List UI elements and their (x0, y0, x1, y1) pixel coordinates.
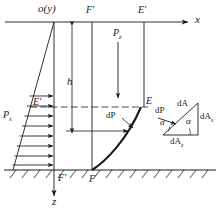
alpha-arc-right (189, 129, 190, 136)
label-alpha-right: α (186, 117, 191, 126)
label-Pz: Pz (113, 28, 122, 40)
z-axis-label: z (52, 196, 56, 207)
x-axis-label: x (195, 14, 200, 25)
label-alpha-left: α (160, 118, 165, 127)
label-dA-text: dA (177, 98, 188, 108)
label-dA-x-base: dA (200, 111, 211, 121)
label-Px-sub: x (9, 115, 12, 122)
curved-surface-EF (92, 107, 141, 170)
label-F-prime-bottom: F′ (58, 173, 66, 183)
label-h-depth: h (67, 76, 73, 87)
label-F-bottom: F (89, 174, 95, 184)
label-E-prime-top: E′ (138, 5, 146, 15)
label-F-prime-top: F′ (86, 5, 94, 15)
label-Px: Px (3, 110, 12, 122)
label-dA-z: dAz (170, 137, 183, 148)
label-dA: dA (177, 99, 188, 108)
label-dP-curve: dP (106, 111, 116, 120)
label-Pz-sub: z (119, 33, 121, 40)
hydrostatic-pressure-figure: o(y) x z F′ E′ E′ F′ F E h Px Pz dP dP d… (0, 0, 221, 213)
label-dP-curve-text: dP (106, 110, 116, 120)
label-E-curve: E (146, 96, 152, 106)
label-dA-z-base: dA (170, 136, 181, 146)
label-dA-x: dAx (200, 112, 213, 123)
label-dA-z-sub: z (181, 142, 183, 148)
label-dP-detail-text: dP (155, 105, 165, 115)
origin-label-o-y: o(y) (38, 3, 56, 14)
label-dP-detail: dP (155, 106, 165, 115)
ground-hatching (10, 170, 208, 178)
label-dA-x-sub: x (211, 117, 213, 123)
label-E-prime-left: E′ (33, 97, 41, 107)
dP-leader-line (122, 118, 133, 128)
